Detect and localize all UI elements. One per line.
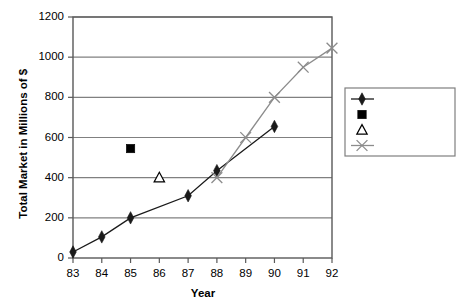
series-1 — [70, 120, 278, 258]
series-2 — [126, 144, 134, 152]
marker-diamond — [98, 231, 105, 243]
series-line — [217, 48, 332, 178]
marker-diamond — [185, 190, 192, 202]
marker-diamond — [70, 246, 77, 258]
marker-diamond — [127, 212, 134, 224]
series-4 — [211, 43, 337, 183]
plot-canvas — [0, 0, 460, 308]
marker-diamond — [271, 120, 278, 132]
chart-figure: Total Market in Millions of $ Year 02004… — [0, 0, 460, 308]
marker-square — [358, 110, 366, 118]
marker-square — [126, 144, 134, 152]
